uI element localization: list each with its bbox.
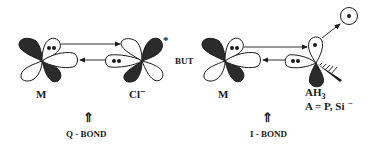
q-bond-label: Q - BOND	[66, 129, 107, 139]
left-metal-d-orbital	[19, 38, 78, 82]
lobe-light	[21, 61, 42, 81]
electron	[117, 59, 121, 63]
electron	[52, 46, 56, 50]
chloride-orbital	[106, 38, 163, 82]
ah3-label: AH3	[305, 86, 326, 101]
excited-star: *	[163, 34, 169, 46]
right-metal-d-orbital	[202, 38, 261, 82]
orbital-diagram: * M Cl− ⇑ Q - BOND BUT	[0, 0, 374, 151]
lobe-dark	[19, 38, 42, 61]
lobe-dark	[202, 38, 225, 61]
electron	[313, 43, 317, 47]
electron	[296, 59, 300, 63]
electron	[347, 14, 351, 18]
q-bond-arrow: ⇑	[83, 110, 94, 125]
electron	[291, 59, 295, 63]
electron	[112, 59, 116, 63]
electron	[230, 46, 234, 50]
electron	[235, 46, 239, 50]
donor-lobe	[285, 55, 316, 68]
lobe-light	[142, 61, 163, 81]
chloride-label: Cl−	[129, 86, 146, 100]
i-bond-arrow: ⇑	[262, 110, 273, 125]
ah3-definition: A = P, Si−	[305, 98, 353, 112]
lobe-dark	[142, 38, 162, 61]
ejection-arrow	[322, 24, 340, 38]
left-metal-label: M	[36, 88, 47, 100]
lobe-light	[204, 61, 225, 81]
i-bond-label: I - BOND	[250, 129, 288, 139]
right-metal-label: M	[218, 88, 229, 100]
electron	[47, 46, 51, 50]
but-connector: BUT	[175, 56, 194, 66]
